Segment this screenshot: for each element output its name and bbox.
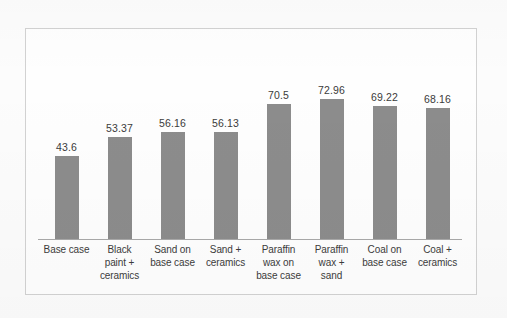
category-labels-row: Base caseBlackpaint +ceramicsSand onbase… — [40, 243, 465, 282]
bar — [55, 156, 79, 240]
category-label-line: Sand on — [147, 243, 198, 256]
bar-slot: 69.22 — [358, 40, 411, 240]
category-label: Coal onbase case — [358, 243, 411, 282]
bar-slot: 56.16 — [146, 40, 199, 240]
category-label-line: Paraffin — [306, 243, 357, 256]
bar — [373, 106, 397, 240]
category-label-line: sand — [306, 269, 357, 282]
category-label: Blackpaint +ceramics — [93, 243, 146, 282]
category-label-line: Paraffin — [253, 243, 304, 256]
category-label-line: wax + — [306, 256, 357, 269]
category-label-line: base case — [147, 256, 198, 269]
category-label-line: Coal on — [359, 243, 410, 256]
category-label-line: Sand + — [200, 243, 251, 256]
bar-slot: 56.13 — [199, 40, 252, 240]
bar-slot: 53.37 — [93, 40, 146, 240]
category-label-line: base case — [253, 269, 304, 282]
category-axis-line — [38, 239, 462, 240]
category-label: Coal +ceramics — [411, 243, 464, 282]
bar-value-label: 68.16 — [424, 93, 451, 105]
bar-value-label: 43.6 — [56, 141, 77, 153]
bar-slot: 70.5 — [252, 40, 305, 240]
bar — [267, 104, 291, 240]
bar-slot: 68.16 — [411, 40, 464, 240]
plot-area: 43.653.3756.1656.1370.572.9669.2268.16 — [40, 40, 465, 240]
category-label-line: paint + — [94, 256, 145, 269]
bar — [426, 108, 450, 240]
bar — [161, 132, 185, 240]
bar-value-label: 70.5 — [268, 89, 289, 101]
bar-value-label: 56.13 — [212, 117, 239, 129]
category-label-line: ceramics — [412, 256, 463, 269]
category-label: Paraffinwax onbase case — [252, 243, 305, 282]
bar-chart-figure: 43.653.3756.1656.1370.572.9669.2268.16 B… — [0, 0, 507, 318]
bar-value-label: 53.37 — [106, 122, 133, 134]
bar-value-label: 72.96 — [318, 84, 345, 96]
category-label-line: base case — [359, 256, 410, 269]
bar-slot: 43.6 — [40, 40, 93, 240]
bar-value-label: 56.16 — [159, 117, 186, 129]
bar — [214, 132, 238, 240]
category-label-line: ceramics — [200, 256, 251, 269]
category-label: Paraffinwax +sand — [305, 243, 358, 282]
category-label-line: Coal + — [412, 243, 463, 256]
category-label: Sand onbase case — [146, 243, 199, 282]
bar-value-label: 69.22 — [371, 91, 398, 103]
bar-slot: 72.96 — [305, 40, 358, 240]
category-label: Sand +ceramics — [199, 243, 252, 282]
category-label: Base case — [40, 243, 93, 282]
category-label-line: Black — [94, 243, 145, 256]
category-label-line: wax on — [253, 256, 304, 269]
category-label-line: ceramics — [94, 269, 145, 282]
bar — [320, 99, 344, 240]
bars-container: 43.653.3756.1656.1370.572.9669.2268.16 — [40, 40, 465, 240]
bar — [108, 137, 132, 240]
category-label-line: Base case — [41, 243, 92, 256]
